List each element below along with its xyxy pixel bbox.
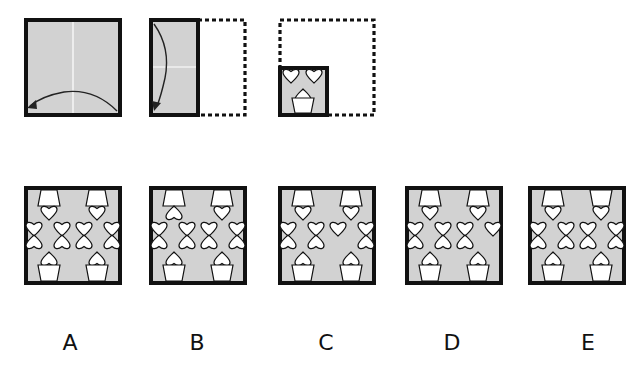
pot-icon — [542, 265, 564, 281]
pot-icon — [86, 265, 108, 281]
unfolded-outline — [198, 20, 245, 115]
pot-icon — [38, 265, 60, 281]
option-label-b[interactable]: B — [177, 330, 217, 355]
option-d-panel[interactable] — [405, 186, 503, 285]
step-3-panel — [278, 18, 378, 117]
option-e-panel[interactable] — [528, 186, 626, 285]
step-2-diagram — [149, 18, 249, 117]
option-label-a[interactable]: A — [50, 330, 90, 355]
pot-icon — [211, 190, 233, 206]
pot-icon — [419, 190, 441, 206]
pot-icon — [542, 190, 564, 206]
pot-icon — [419, 265, 441, 281]
option-label-e[interactable]: E — [568, 330, 608, 355]
pot-icon — [211, 265, 233, 281]
pot-icon — [163, 190, 185, 206]
pot-icon — [590, 190, 612, 206]
pot-icon — [163, 265, 185, 281]
step-1-diagram — [24, 18, 122, 117]
option-label-c[interactable]: C — [306, 330, 346, 355]
option-c-panel[interactable] — [278, 186, 376, 285]
step-3-diagram — [278, 18, 378, 117]
pot-icon — [38, 190, 60, 206]
pot-icon — [590, 265, 612, 281]
step-1-panel — [24, 18, 122, 117]
pot-icon — [292, 98, 314, 113]
option-label-d[interactable]: D — [432, 330, 472, 355]
pot-icon — [467, 265, 489, 281]
option-a-panel[interactable] — [24, 186, 122, 285]
pot-icon — [467, 190, 489, 206]
pot-icon — [340, 190, 362, 206]
pot-icon — [340, 265, 362, 281]
pot-icon — [292, 265, 314, 281]
option-b-panel[interactable] — [149, 186, 247, 285]
pot-icon — [292, 190, 314, 206]
step-2-panel — [149, 18, 249, 117]
pot-icon — [86, 190, 108, 206]
